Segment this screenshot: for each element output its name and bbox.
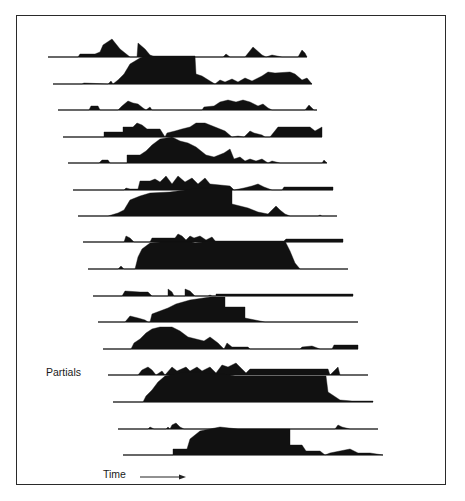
partial-envelope-row <box>103 327 358 349</box>
row-envelope-area <box>93 289 353 296</box>
partial-envelope-row <box>53 56 312 84</box>
partial-envelope-row <box>58 100 317 110</box>
row-envelope-area <box>78 188 337 216</box>
row-envelope-area <box>53 56 312 84</box>
partial-envelope-row <box>78 188 337 216</box>
envelope-rows <box>48 39 383 455</box>
row-envelope-area <box>63 123 322 137</box>
partial-envelope-row <box>123 427 383 455</box>
partial-envelope-row <box>93 289 353 296</box>
row-envelope-area <box>108 363 368 375</box>
partial-envelope-row <box>98 297 358 322</box>
partials-waterfall-plot <box>0 0 465 501</box>
row-envelope-area <box>103 327 358 349</box>
row-envelope-area <box>58 100 317 110</box>
row-envelope-area <box>48 39 307 57</box>
row-envelope-area <box>68 137 327 163</box>
row-envelope-area <box>98 297 358 322</box>
partial-envelope-row <box>68 137 327 163</box>
partial-envelope-row <box>48 39 307 57</box>
x-axis-label-time: Time <box>103 468 126 480</box>
time-arrow-icon <box>140 474 186 480</box>
partial-envelope-row <box>118 423 378 429</box>
partial-envelope-row <box>113 372 373 402</box>
partial-envelope-row <box>108 363 368 375</box>
partial-envelope-row <box>88 241 348 269</box>
row-envelope-area <box>113 372 373 402</box>
row-envelope-area <box>123 427 383 455</box>
partial-envelope-row <box>63 123 322 137</box>
row-envelope-area <box>88 241 348 269</box>
row-envelope-area <box>118 423 378 429</box>
y-axis-label-partials: Partials <box>46 366 81 378</box>
